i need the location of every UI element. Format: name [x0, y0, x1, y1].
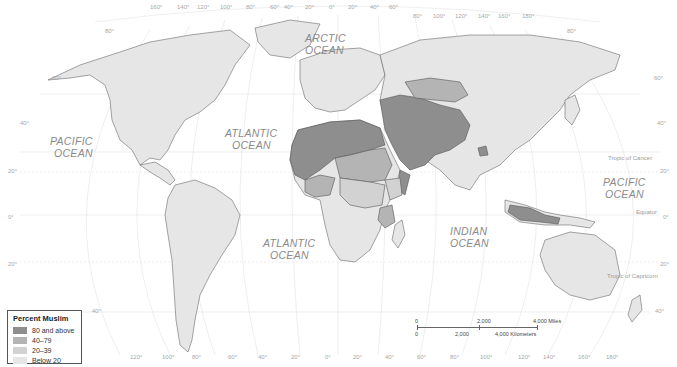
- svg-text:20°: 20°: [353, 354, 363, 360]
- svg-text:0°: 0°: [329, 4, 335, 10]
- scale-miles-0: 0: [415, 318, 418, 324]
- svg-text:60°: 60°: [389, 4, 399, 10]
- muslim-20-39: [340, 178, 402, 208]
- legend-item-20-39: 20–39: [13, 345, 76, 355]
- tropic-of-cancer-label: Tropic of Cancer: [608, 155, 652, 161]
- bangladesh-region: [478, 146, 488, 156]
- svg-text:80°: 80°: [567, 28, 577, 34]
- legend: Percent Muslim 80 and above 40–79 20–39 …: [7, 310, 82, 364]
- svg-text:60°: 60°: [52, 75, 62, 81]
- svg-text:40°: 40°: [20, 120, 30, 126]
- legend-item-40-79: 40–79: [13, 335, 76, 345]
- svg-text:120°: 120°: [197, 4, 210, 10]
- legend-item-below-20: Below 20: [13, 355, 76, 365]
- svg-text:60°: 60°: [270, 4, 280, 10]
- scale-tick: [479, 325, 480, 330]
- svg-text:100°: 100°: [433, 13, 446, 19]
- japan: [565, 95, 580, 125]
- south-america: [165, 180, 240, 352]
- scale-bar: 0 2,000 4,000 Miles 0 2,000 4,000 Kilome…: [415, 318, 555, 344]
- svg-text:0°: 0°: [325, 354, 331, 360]
- legend-label: 40–79: [32, 337, 51, 344]
- svg-text:140°: 140°: [543, 354, 556, 360]
- ocean-label-atlantic-south: ATLANTIC: [262, 237, 315, 249]
- ocean-label-arctic: ARCTIC: [304, 32, 346, 44]
- scale-km-2000: 2,000: [455, 331, 469, 337]
- scale-tick: [537, 325, 538, 330]
- svg-text:140°: 140°: [177, 4, 190, 10]
- svg-text:100°: 100°: [162, 354, 175, 360]
- svg-text:180°: 180°: [522, 13, 535, 19]
- svg-text:20°: 20°: [8, 261, 18, 267]
- ocean-label-indian: INDIAN: [450, 225, 488, 237]
- legend-swatch: [13, 337, 27, 344]
- svg-text:40°: 40°: [370, 4, 380, 10]
- tropic-of-capricorn-label: Tropic of Capricorn: [607, 273, 658, 279]
- svg-text:20°: 20°: [348, 4, 358, 10]
- madagascar: [392, 220, 405, 248]
- scale-line: [417, 327, 537, 328]
- west-africa-region: [305, 175, 335, 197]
- ocean-label-pacific-west: PACIFIC: [50, 135, 93, 147]
- svg-text:60°: 60°: [654, 75, 664, 81]
- scale-km-4000: 4,000 Kilometers: [495, 331, 536, 337]
- svg-text:160°: 160°: [498, 13, 511, 19]
- svg-text:80°: 80°: [246, 4, 256, 10]
- australia: [540, 232, 620, 300]
- svg-text:20°: 20°: [291, 354, 301, 360]
- legend-label: 20–39: [32, 347, 51, 354]
- ocean-label-atlantic-south-line2: OCEAN: [270, 249, 309, 261]
- bottom-longitude-labels: 120° 100° 80° 60° 40° 20° 0° 20° 40° 60°…: [130, 354, 619, 360]
- svg-text:20°: 20°: [8, 168, 18, 174]
- svg-text:0°: 0°: [663, 214, 669, 220]
- scale-miles-4000: 4,000 Miles: [533, 318, 561, 324]
- new-zealand: [628, 295, 642, 322]
- central-america: [140, 162, 175, 185]
- svg-text:40°: 40°: [284, 4, 294, 10]
- legend-label: 80 and above: [32, 327, 74, 334]
- scale-tick: [417, 325, 418, 330]
- legend-title: Percent Muslim: [13, 314, 76, 323]
- svg-text:40°: 40°: [655, 308, 665, 314]
- svg-text:0°: 0°: [8, 214, 14, 220]
- svg-text:100°: 100°: [480, 354, 493, 360]
- legend-swatch: [13, 357, 27, 364]
- world-map: ARCTIC OCEAN PACIFIC OCEAN ATLANTIC OCEA…: [0, 0, 677, 367]
- ocean-label-atlantic-north-line2: OCEAN: [232, 139, 271, 151]
- svg-text:80°: 80°: [192, 354, 202, 360]
- legend-swatch: [13, 347, 27, 354]
- svg-text:160°: 160°: [578, 354, 591, 360]
- svg-text:100°: 100°: [220, 4, 233, 10]
- ocean-label-pacific-west-line2: OCEAN: [54, 147, 93, 159]
- svg-text:120°: 120°: [455, 13, 468, 19]
- scale-miles-2000: 2,000: [477, 318, 491, 324]
- svg-text:40°: 40°: [385, 354, 395, 360]
- svg-text:20°: 20°: [660, 168, 670, 174]
- svg-text:180°: 180°: [606, 354, 619, 360]
- ocean-label-atlantic-north: ATLANTIC: [224, 127, 277, 139]
- map-canvas: ARCTIC OCEAN PACIFIC OCEAN ATLANTIC OCEA…: [0, 0, 677, 367]
- svg-text:60°: 60°: [228, 354, 238, 360]
- ocean-label-arctic-line2: OCEAN: [305, 44, 344, 56]
- europe: [300, 48, 385, 112]
- svg-text:160°: 160°: [150, 4, 163, 10]
- equator-label: Equator: [636, 209, 657, 215]
- svg-text:60°: 60°: [417, 354, 427, 360]
- svg-text:40°: 40°: [92, 308, 102, 314]
- svg-text:140°: 140°: [478, 13, 491, 19]
- svg-text:120°: 120°: [130, 354, 143, 360]
- svg-text:40°: 40°: [258, 354, 268, 360]
- legend-item-80-plus: 80 and above: [13, 325, 76, 335]
- svg-text:20°: 20°: [305, 4, 315, 10]
- legend-swatch: [13, 327, 27, 334]
- svg-text:80°: 80°: [105, 28, 115, 34]
- scale-km-0: 0: [415, 331, 418, 337]
- ocean-label-pacific-east: PACIFIC: [603, 176, 646, 188]
- svg-text:40°: 40°: [657, 120, 667, 126]
- svg-text:20°: 20°: [660, 261, 670, 267]
- svg-text:80°: 80°: [450, 354, 460, 360]
- svg-text:80°: 80°: [413, 13, 423, 19]
- legend-label: Below 20: [32, 357, 61, 364]
- svg-text:120°: 120°: [518, 354, 531, 360]
- ocean-label-indian-line2: OCEAN: [450, 237, 489, 249]
